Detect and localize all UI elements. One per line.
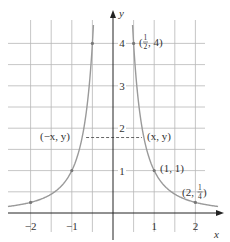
chart: −2−1121234 y x ( 1 2 , 4) (1, 1) (2, 1 4…: [0, 0, 230, 242]
curve-left-branch: [8, 25, 93, 206]
svg-text:): ): [203, 186, 207, 199]
y-tick-label: 1: [119, 165, 125, 177]
x-tick-label: 2: [193, 220, 199, 232]
svg-text:(2,: (2,: [182, 186, 194, 199]
x-tick-label: −1: [66, 220, 78, 232]
svg-text:, 4): , 4): [148, 36, 163, 49]
svg-text:(: (: [139, 36, 143, 49]
label-neg-x-y: (−x, y): [40, 130, 70, 143]
axes: [8, 10, 224, 240]
data-point: [194, 201, 197, 204]
y-axis-label: y: [118, 7, 124, 19]
data-point: [70, 169, 73, 172]
y-tick-label: 2: [119, 122, 125, 134]
y-axis-arrow-icon: [110, 10, 116, 18]
y-tick-label: 4: [119, 37, 125, 49]
svg-text:2: 2: [144, 42, 148, 51]
x-axis-label: x: [213, 228, 219, 240]
curve-right-branch: [133, 25, 218, 206]
svg-text:1: 1: [198, 183, 202, 192]
svg-text:4: 4: [198, 192, 202, 201]
data-point: [29, 201, 32, 204]
x-tick-label: 1: [151, 220, 157, 232]
svg-text:1: 1: [144, 33, 148, 42]
data-point: [91, 42, 94, 45]
data-point: [153, 169, 156, 172]
data-point: [132, 42, 135, 45]
x-axis-arrow-icon: [216, 210, 224, 216]
x-tick-label: −2: [25, 220, 37, 232]
y-tick-label: 3: [119, 80, 125, 92]
label-x-y: (x, y): [147, 130, 171, 143]
point-label-half-4: ( 1 2 , 4): [139, 33, 163, 51]
point-label-1-1: (1, 1): [160, 162, 184, 175]
